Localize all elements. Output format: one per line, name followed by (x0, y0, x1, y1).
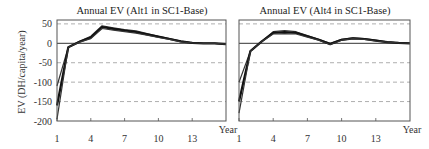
x-tick-label: 1 (237, 133, 242, 144)
x-tick-label: 13 (371, 133, 381, 144)
y-tick-label: 50 (42, 18, 52, 29)
y-tick-label: 0 (47, 38, 52, 49)
x-tick-label: 10 (153, 133, 163, 144)
right-plot-frame (239, 20, 410, 121)
x-tick-label: 7 (305, 133, 310, 144)
series-line (57, 26, 226, 86)
left-y-ticks: 500-50-100-150-200 (34, 18, 52, 126)
y-tick-label: -150 (34, 96, 52, 107)
x-tick-label: 7 (122, 133, 127, 144)
right-gridlines (239, 24, 410, 102)
x-tick-label: 13 (187, 133, 197, 144)
left-x-axis-label: Year (219, 124, 238, 135)
y-tick-label: -200 (34, 116, 52, 127)
x-tick-label: 4 (271, 133, 276, 144)
x-tick-label: 1 (55, 133, 60, 144)
x-tick-label: 4 (88, 133, 93, 144)
right-x-axis-label: Year (403, 124, 422, 135)
series-line (57, 27, 226, 106)
left-series-lines (57, 26, 226, 119)
left-x-ticks: 1471013 (55, 118, 198, 144)
left-panel-title: Annual EV (Alt1 in SC1-Base) (76, 5, 208, 17)
x-tick-label: 10 (337, 133, 347, 144)
y-tick-label: -100 (34, 77, 52, 88)
left-panel: Annual EV (Alt1 in SC1-Base) EV (DH/capi… (16, 5, 238, 144)
y-axis-label: EV (DH/capita/year) (16, 30, 28, 113)
right-panel-title: Annual EV (Alt4 in SC1-Base) (259, 5, 391, 17)
y-tick-label: -50 (39, 57, 52, 68)
chart-area: Annual EV (Alt1 in SC1-Base) EV (DH/capi… (0, 0, 429, 149)
right-panel: Annual EV (Alt4 in SC1-Base) 1471013 Yea… (237, 5, 422, 144)
right-x-ticks: 1471013 (237, 118, 381, 144)
left-gridlines (57, 24, 226, 102)
series-line (57, 29, 226, 120)
left-plot-frame (57, 20, 226, 121)
